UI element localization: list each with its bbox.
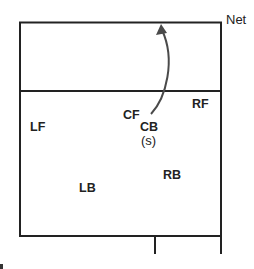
player-cb: CB <box>140 121 158 134</box>
arrowhead-icon <box>156 24 167 35</box>
corner-mark <box>0 264 3 269</box>
player-cf: CF <box>123 109 140 122</box>
player-lb: LB <box>79 182 96 195</box>
player-rb: RB <box>163 169 181 182</box>
player-cb-setter-tag: (s) <box>141 134 156 147</box>
net-label: Net <box>226 13 246 26</box>
setter-path-arrow <box>151 30 169 114</box>
player-lf: LF <box>30 121 45 134</box>
court-diagram: Net LF CF RF CB (s) LB RB <box>0 0 254 269</box>
player-rf: RF <box>192 98 209 111</box>
court-lines <box>0 0 254 269</box>
